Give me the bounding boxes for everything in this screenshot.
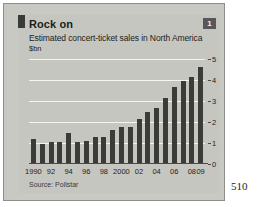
bar (189, 77, 194, 164)
corner-tab-marker (18, 15, 25, 28)
bar (40, 144, 45, 164)
bar (66, 133, 71, 165)
y-tick-mark (208, 164, 211, 165)
y-tick-label: 2 (212, 118, 216, 127)
x-tick-label: 98 (100, 167, 108, 176)
y-tick-mark (208, 59, 211, 60)
bar (137, 119, 142, 164)
bar (49, 142, 54, 164)
scanned-page-frame: 1 Rock on Estimated concert-ticket sales… (3, 3, 225, 201)
y-tick-mark (208, 143, 211, 144)
bar (75, 142, 80, 164)
x-tick-label: 06 (170, 167, 178, 176)
chart-units-label: $bn (29, 44, 42, 53)
x-tick-label: 92 (47, 167, 55, 176)
x-tick-label: 02 (135, 167, 143, 176)
y-tick-label: 0 (212, 160, 216, 169)
bar (84, 141, 89, 164)
chart-title: Rock on (29, 18, 73, 30)
chart-subtitle: Estimated concert-ticket sales in North … (29, 33, 202, 43)
page-number: 510 (231, 180, 248, 192)
bar (119, 127, 124, 164)
bar (154, 108, 159, 164)
bar (128, 127, 133, 164)
y-axis: 012345 (208, 59, 222, 164)
y-tick-label: 3 (212, 97, 216, 106)
y-tick-label: 1 (212, 139, 216, 148)
chart-source: Source: Pollstar (29, 181, 78, 188)
bar-series (29, 59, 205, 164)
bar (110, 130, 115, 164)
y-tick-mark (208, 122, 211, 123)
bar (163, 98, 168, 164)
chart-number-badge: 1 (203, 18, 216, 29)
bar (198, 67, 203, 164)
x-tick-label: 96 (82, 167, 90, 176)
x-tick-label: 2000 (113, 167, 130, 176)
chart-panel: 1 Rock on Estimated concert-ticket sales… (18, 15, 220, 193)
x-tick-label: 94 (64, 167, 72, 176)
plot-area (29, 59, 205, 164)
y-tick-mark (208, 80, 211, 81)
x-tick-label: 09 (196, 167, 204, 176)
x-tick-label: 04 (152, 167, 160, 176)
bar (145, 112, 150, 165)
bar (181, 81, 186, 164)
bar (101, 137, 106, 164)
bar (172, 87, 177, 164)
y-tick-mark (208, 101, 211, 102)
bar (93, 137, 98, 164)
bar (31, 139, 36, 164)
y-tick-label: 4 (212, 76, 216, 85)
bar (57, 142, 62, 164)
x-tick-label: 08 (188, 167, 196, 176)
page-root: 1 Rock on Estimated concert-ticket sales… (0, 0, 262, 207)
x-axis: 19909294969820000204060809 (29, 167, 209, 179)
x-tick-label: 1990 (25, 167, 42, 176)
y-tick-label: 5 (212, 55, 216, 64)
axis-baseline (29, 163, 208, 164)
